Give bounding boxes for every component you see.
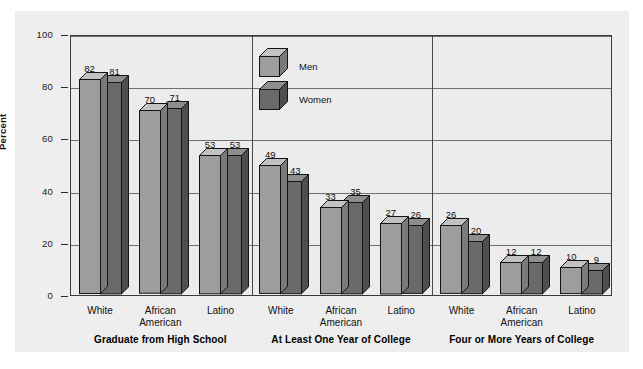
bar-3d-shape <box>139 103 169 295</box>
category-label-1-0: White <box>251 305 311 317</box>
bar-3d-shape <box>259 158 289 295</box>
bar-3d-shape <box>199 148 229 295</box>
category-label-2-1: African American <box>492 305 552 328</box>
bar-men-0-1 <box>139 112 160 295</box>
bar-men-1-0 <box>259 167 280 295</box>
y-tick-mark-0 <box>61 296 68 297</box>
value-label-men-0-1: 70 <box>136 94 164 105</box>
value-label-women-0-2: 53 <box>221 139 249 150</box>
group-separator-2 <box>432 36 433 295</box>
bar-3d-shape <box>500 255 530 295</box>
legend-cube-icon <box>259 81 289 111</box>
bar-3d-shape <box>320 200 350 295</box>
bar-men-0-0 <box>79 81 100 295</box>
legend-label-women: Women <box>299 94 332 105</box>
value-label-women-1-0: 43 <box>281 165 309 176</box>
y-tick-label-20: 20 <box>13 238 53 249</box>
bar-men-0-2 <box>199 157 220 295</box>
value-label-men-2-1: 12 <box>497 246 525 257</box>
group-label-2: Four or More Years of College <box>431 334 612 345</box>
bar-3d-shape <box>79 72 109 295</box>
bar-men-2-2 <box>560 269 581 295</box>
y-tick-label-100: 100 <box>13 29 53 40</box>
bar-men-2-1 <box>500 264 521 295</box>
legend-label-men: Men <box>299 61 317 72</box>
y-tick-label-60: 60 <box>13 133 53 144</box>
bar-men-1-2 <box>380 225 401 295</box>
value-label-women-2-0: 20 <box>462 225 490 236</box>
gridline-100 <box>71 36 611 37</box>
value-label-women-0-1: 71 <box>161 92 189 103</box>
value-label-men-2-2: 10 <box>557 251 585 262</box>
category-label-0-2: Latino <box>190 305 250 317</box>
legend-cube-icon <box>259 48 289 78</box>
bar-men-1-1 <box>320 209 341 295</box>
group-label-1: At Least One Year of College <box>251 334 432 345</box>
value-label-women-0-0: 81 <box>101 66 129 77</box>
bar-3d-shape <box>380 216 410 295</box>
value-label-women-1-1: 35 <box>342 186 370 197</box>
category-label-1-2: Latino <box>371 305 431 317</box>
plot-area: 82817071535349433335272626201212109 MenW… <box>70 35 612 296</box>
y-axis-title: Percent <box>0 114 8 150</box>
y-tick-label-0: 0 <box>13 290 53 301</box>
value-label-men-2-0: 26 <box>437 209 465 220</box>
chart-figure: 020406080100 Percent 8281707153534943333… <box>0 0 643 369</box>
gridline-80 <box>71 88 611 89</box>
value-label-women-2-2: 9 <box>582 254 610 265</box>
value-label-women-2-1: 12 <box>522 246 550 257</box>
value-label-women-1-2: 26 <box>402 209 430 220</box>
y-tick-label-80: 80 <box>13 81 53 92</box>
y-tick-mark-40 <box>61 192 68 193</box>
value-label-men-1-1: 33 <box>317 191 345 202</box>
value-label-men-0-2: 53 <box>196 139 224 150</box>
y-tick-label-40: 40 <box>13 186 53 197</box>
y-tick-mark-100 <box>61 35 68 36</box>
bar-men-2-0 <box>440 227 461 295</box>
group-label-0: Graduate from High School <box>70 334 251 345</box>
value-label-men-0-0: 82 <box>76 63 104 74</box>
category-label-0-1: African American <box>130 305 190 328</box>
group-separator-1 <box>252 36 253 295</box>
y-tick-mark-80 <box>61 87 68 88</box>
value-label-men-1-2: 27 <box>377 207 405 218</box>
category-label-0-0: White <box>70 305 130 317</box>
bar-3d-shape <box>560 260 590 295</box>
category-label-1-1: African American <box>311 305 371 328</box>
category-label-2-2: Latino <box>552 305 612 317</box>
y-tick-mark-60 <box>61 139 68 140</box>
value-label-men-1-0: 49 <box>256 149 284 160</box>
y-tick-mark-20 <box>61 244 68 245</box>
category-label-2-0: White <box>431 305 491 317</box>
